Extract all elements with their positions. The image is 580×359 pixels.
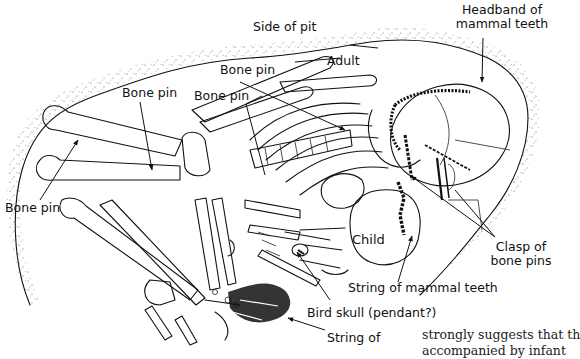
string-of-mammal-teeth-chest: [398, 135, 412, 235]
label-headband: Headband of mammal teeth: [450, 3, 554, 32]
adult-skull: [379, 71, 521, 199]
label-bone-pin-upper: Bone pin: [220, 63, 275, 77]
label-string-of-mammal-teeth: String of mammal teeth: [348, 281, 498, 295]
label-clasp-line2: bone pins: [488, 254, 554, 268]
adult-ribs: [250, 103, 388, 195]
body-text-line-1: strongly suggests that th: [422, 327, 580, 343]
label-side-of-pit: Side of pit: [253, 20, 316, 34]
label-clasp: Clasp of bone pins: [488, 240, 554, 269]
label-headband-line1: Headband of: [450, 3, 554, 17]
adult-spine: [250, 130, 352, 168]
bird-skull: [292, 244, 308, 256]
adult-jaw: [368, 110, 420, 167]
string-of-teeth-lower: [228, 284, 290, 323]
label-bird-skull: Bird skull (pendant?): [307, 306, 436, 320]
label-bone-pin-left: Bone pin: [122, 86, 177, 100]
label-headband-line2: mammal teeth: [450, 17, 554, 31]
body-text-line-2: accompanied by infant: [422, 343, 566, 359]
scattered-bones: [145, 200, 330, 345]
adult-leg-bones: [36, 106, 236, 305]
child-skull: [321, 174, 420, 265]
label-clasp-line1: Clasp of: [488, 240, 554, 254]
label-bone-pin-middle: Bone pin: [194, 89, 249, 103]
label-child: Child: [352, 233, 385, 248]
label-string-of: String of: [327, 331, 380, 345]
clasp-bone-pins: [437, 158, 482, 230]
label-adult: Adult: [327, 54, 360, 68]
label-bone-pin-far-left: Bone pin: [5, 201, 60, 215]
